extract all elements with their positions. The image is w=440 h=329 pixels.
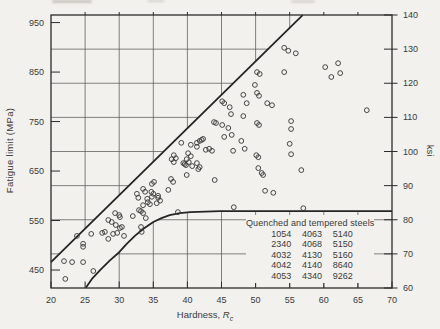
legend-row: 403241305160 — [266, 250, 358, 260]
legend-grade-list: 1054406351402340406851504032413051604042… — [246, 228, 374, 281]
x-tick-label: 65 — [353, 295, 363, 305]
y-tick-label-mpa: 850 — [29, 67, 44, 77]
x-tick-label: 45 — [216, 295, 226, 305]
scan-artifact — [52, 0, 92, 3]
steel-grade: 5160 — [327, 250, 358, 260]
y-tick-label-ksi: 80 — [403, 215, 413, 225]
steel-grade: 4130 — [297, 250, 328, 260]
legend-quenched-tempered-steels: Quenched and tempered steels 10544063514… — [246, 215, 374, 283]
legend-title: Quenched and tempered steels — [246, 218, 374, 228]
steel-grade: 5150 — [327, 239, 358, 249]
steel-grade: 4042 — [266, 260, 297, 270]
y-tick-label-ksi: 120 — [403, 78, 418, 88]
steel-grade: 4053 — [266, 271, 297, 281]
x-tick-label: 35 — [148, 295, 158, 305]
steel-grade: 9262 — [327, 271, 358, 281]
steel-grade: 1054 — [266, 229, 297, 239]
steel-grade: 4340 — [297, 271, 328, 281]
y-tick-label-ksi: 70 — [403, 249, 413, 259]
y-tick-label-ksi: 140 — [403, 10, 418, 20]
legend-row: 234040685150 — [266, 239, 358, 249]
y-tick-label-ksi: 60 — [403, 283, 413, 293]
figure-scan: 2025303540455055606570450550650750850950… — [0, 0, 440, 329]
scan-artifact — [148, 0, 164, 2]
y-tick-label-mpa: 950 — [29, 18, 44, 28]
y-axis-title-ksi: ksi — [423, 139, 436, 163]
hardness-symbol: R — [223, 309, 230, 320]
x-tick-label: 50 — [251, 295, 261, 305]
x-axis-title-text: Hardness, — [177, 309, 223, 320]
steel-grade: 5140 — [327, 229, 358, 239]
fatigue-limit-vs-hardness-chart: 2025303540455055606570450550650750850950… — [0, 0, 440, 329]
y-tick-label-mpa: 650 — [29, 166, 44, 176]
hardness-subscript: c — [230, 315, 234, 322]
y-tick-label-ksi: 100 — [403, 147, 418, 157]
steel-grade: 4063 — [297, 229, 328, 239]
x-tick-label: 70 — [387, 295, 397, 305]
x-tick-label: 30 — [114, 295, 124, 305]
steel-grade: 8640 — [327, 260, 358, 270]
y-tick-label-mpa: 450 — [29, 265, 44, 275]
legend-row: 405343409262 — [266, 271, 358, 281]
x-tick-label: 20 — [46, 295, 56, 305]
y-axis-title-mpa: Fatigue limit (MPa) — [4, 71, 17, 231]
legend-row: 105440635140 — [266, 229, 358, 239]
x-tick-label: 60 — [319, 295, 329, 305]
y-tick-label-mpa: 550 — [29, 216, 44, 226]
steel-grade: 4032 — [266, 250, 297, 260]
y-tick-label-ksi: 130 — [403, 44, 418, 54]
scan-artifact — [291, 0, 315, 3]
steel-grade: 4068 — [297, 239, 328, 249]
x-tick-label: 55 — [285, 295, 295, 305]
x-tick-label: 40 — [182, 295, 192, 305]
y-tick-label-mpa: 750 — [29, 117, 44, 127]
legend-row: 404241408640 — [266, 260, 358, 270]
y-tick-label-ksi: 90 — [403, 181, 413, 191]
y-tick-label-ksi: 110 — [403, 112, 417, 122]
x-tick-label: 25 — [80, 295, 90, 305]
steel-grade: 2340 — [266, 239, 297, 249]
steel-grade: 4140 — [297, 260, 328, 270]
x-axis-title: Hardness, Rc — [135, 309, 275, 322]
